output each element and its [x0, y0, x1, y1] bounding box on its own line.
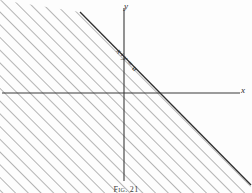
x-axis-label: x: [241, 85, 245, 95]
plot-canvas: [0, 0, 252, 193]
y-axis-label: y: [124, 1, 128, 11]
figure-caption: Fig. 21: [0, 185, 252, 193]
shaded-region: [0, 0, 252, 193]
figure-container: y x x+y = u Fig. 21: [0, 0, 252, 193]
